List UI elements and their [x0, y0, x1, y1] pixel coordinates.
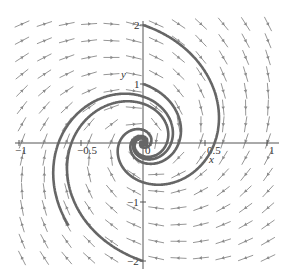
- arrowhead-icon: [110, 39, 113, 43]
- arrowhead-icon: [88, 39, 91, 43]
- y-tick-label: 1: [134, 78, 140, 90]
- arrowhead-icon: [110, 56, 113, 60]
- arrowhead-icon: [132, 72, 135, 76]
- arrowhead-icon: [132, 55, 135, 59]
- arrowhead-icon: [221, 106, 225, 109]
- arrowhead-icon: [221, 89, 224, 92]
- arrowhead-icon: [133, 123, 136, 127]
- arrowhead-icon: [199, 256, 202, 260]
- y-axis-label: y: [120, 68, 126, 80]
- arrowhead-icon: [87, 156, 91, 159]
- arrowhead-icon: [133, 106, 136, 110]
- arrowhead-icon: [222, 123, 226, 126]
- arrowhead-icon: [154, 240, 157, 244]
- trajectory-curve: [53, 94, 173, 226]
- x-axis-label: x: [208, 153, 214, 165]
- arrowhead-icon: [154, 256, 157, 260]
- arrowhead-icon: [65, 22, 68, 26]
- arrowhead-icon: [199, 123, 203, 126]
- arrowhead-icon: [43, 172, 47, 175]
- arrowhead-icon: [266, 106, 270, 109]
- arrowhead-icon: [154, 173, 157, 177]
- x-tick-label: −0.5: [77, 144, 97, 156]
- arrowhead-icon: [132, 39, 135, 43]
- arrowhead-icon: [88, 172, 92, 175]
- y-tick-label: 2: [134, 19, 140, 31]
- arrowhead-icon: [110, 22, 113, 26]
- arrowhead-icon: [65, 39, 68, 42]
- trajectory-curve: [118, 25, 219, 185]
- arrowhead-icon: [155, 140, 159, 143]
- phase-portrait-chart: −1−0.500.51 21−1−2 x y: [0, 0, 286, 276]
- x-tick-label: 1: [269, 144, 275, 156]
- arrowhead-icon: [20, 206, 24, 209]
- arrowhead-icon: [42, 156, 46, 159]
- arrowhead-icon: [88, 22, 91, 26]
- trajectory-curve: [67, 101, 168, 261]
- arrowhead-icon: [221, 256, 224, 260]
- x-tick-label: −1: [15, 144, 27, 156]
- arrowhead-icon: [199, 223, 202, 227]
- arrowhead-icon: [154, 189, 157, 193]
- arrowhead-icon: [110, 72, 113, 76]
- arrowhead-icon: [20, 172, 24, 175]
- arrowhead-icon: [177, 239, 180, 243]
- arrowhead-icon: [266, 90, 270, 93]
- arrowhead-icon: [266, 123, 270, 126]
- arrowhead-icon: [199, 106, 202, 109]
- arrowhead-icon: [43, 206, 46, 209]
- arrowhead-icon: [244, 107, 248, 110]
- arrowhead-icon: [20, 189, 24, 192]
- arrowhead-icon: [266, 73, 270, 76]
- arrowhead-icon: [177, 256, 180, 260]
- arrowhead-icon: [110, 156, 114, 159]
- arrowhead-icon: [20, 156, 24, 159]
- arrowhead-icon: [65, 189, 68, 192]
- arrowhead-icon: [177, 189, 180, 192]
- y-tick-label: −1: [127, 196, 139, 208]
- arrowhead-icon: [88, 56, 91, 60]
- arrowhead-icon: [177, 223, 180, 227]
